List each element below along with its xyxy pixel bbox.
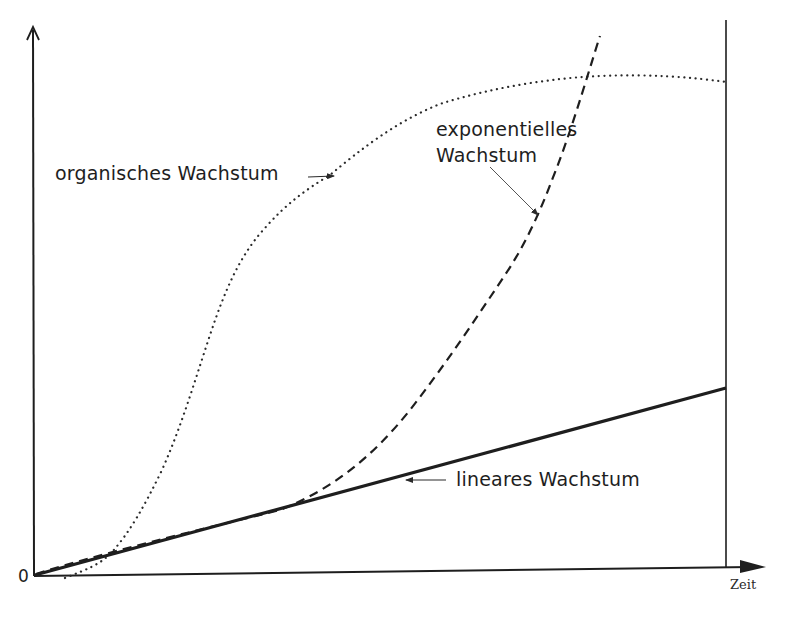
exponential-growth-label-line2: Wachstum	[436, 144, 537, 166]
x-axis-label: Zeit	[730, 577, 756, 592]
growth-chart	[0, 0, 793, 619]
exponential-growth-label-line1: exponentielles	[436, 118, 577, 140]
origin-label: 0	[18, 566, 29, 586]
organic-growth-curve	[65, 75, 726, 578]
exponential-growth-curve	[36, 36, 600, 574]
x-axis-arrow-icon	[740, 560, 766, 573]
y-axis	[27, 27, 39, 576]
x-axis	[34, 560, 766, 576]
organic-pointer-arrow-icon	[308, 176, 334, 177]
linear-growth-label: lineares Wachstum	[456, 468, 640, 490]
organic-growth-label: organisches Wachstum	[55, 162, 279, 184]
exponential-pointer-arrow-icon	[490, 167, 538, 215]
